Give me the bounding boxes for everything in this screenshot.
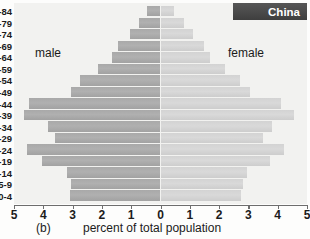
male-side-label: male [35, 46, 61, 60]
bar-male [48, 121, 161, 131]
bar-female [161, 6, 174, 16]
x-axis-tick-label: 5 [11, 208, 18, 222]
bar-male [29, 98, 161, 108]
bar-male [55, 133, 160, 143]
age-label: 50-54 [0, 76, 12, 85]
age-label: 0-4 [0, 192, 12, 201]
bar-female [161, 190, 242, 200]
bar-male [71, 87, 160, 97]
bar-female [161, 110, 294, 120]
pyramid-row [14, 121, 307, 131]
bar-male [80, 75, 161, 85]
x-axis-tick-label: 1 [186, 208, 193, 222]
pyramid-row [14, 98, 307, 108]
x-axis-tick-label: 5 [304, 208, 310, 222]
pyramid-row [14, 110, 307, 120]
age-label: 60-64 [0, 53, 12, 62]
bar-female [161, 179, 243, 189]
bar-female [161, 156, 271, 166]
age-label: 25-29 [0, 134, 12, 143]
pyramid-row [14, 64, 307, 74]
age-label: 30-34 [0, 123, 12, 132]
age-label: 35-39 [0, 111, 12, 120]
age-axis-labels: 80-8475-7970-7465-6960-6455-5950-5445-49… [0, 6, 13, 202]
bar-male [71, 179, 160, 189]
age-label: 15-19 [0, 157, 12, 166]
bar-female [161, 121, 272, 131]
female-side-label: female [228, 46, 264, 60]
panel-caption: (b) [36, 221, 51, 235]
age-label: 10-14 [0, 169, 12, 178]
bar-female [161, 41, 205, 51]
pyramid-row [14, 179, 307, 189]
bar-male [42, 156, 161, 166]
bar-male [147, 6, 160, 16]
x-axis-tick-label: 2 [99, 208, 106, 222]
pyramid-row [14, 156, 307, 166]
bar-male [27, 144, 160, 154]
age-label: 20-24 [0, 146, 12, 155]
x-axis-tick-label: 4 [40, 208, 47, 222]
bar-female [161, 98, 281, 108]
age-label: 80-84 [0, 7, 12, 16]
bar-female [161, 52, 211, 62]
age-label: 75-79 [0, 19, 12, 28]
age-label: 45-49 [0, 88, 12, 97]
age-label: 65-69 [0, 42, 12, 51]
bar-female [161, 18, 184, 28]
bar-male [98, 64, 161, 74]
pyramid-row [14, 87, 307, 97]
bar-female [161, 29, 193, 39]
age-label: 40-44 [0, 100, 12, 109]
pyramid-row [14, 29, 307, 39]
bar-female [161, 144, 284, 154]
x-axis-tick-label: 3 [69, 208, 76, 222]
bar-male [130, 29, 161, 39]
x-axis-tick-label: 0 [157, 208, 164, 222]
x-axis-tick-label: 2 [216, 208, 223, 222]
country-title: China [268, 6, 300, 18]
pyramid-row [14, 144, 307, 154]
pyramid-row [14, 167, 307, 177]
bar-female [161, 87, 250, 97]
bar-male [139, 18, 161, 28]
age-label: 5-9 [0, 180, 12, 189]
bar-male [118, 41, 160, 51]
pyramid-row [14, 133, 307, 143]
pyramid-row [14, 75, 307, 85]
x-axis-tick-label: 3 [245, 208, 252, 222]
x-axis-title: percent of total population [83, 221, 221, 235]
bar-male [24, 110, 160, 120]
plot-area [14, 6, 307, 202]
country-title-box: China [233, 3, 307, 20]
bar-female [161, 133, 264, 143]
pyramid-row [14, 190, 307, 200]
bar-female [161, 64, 225, 74]
population-pyramid-figure: 80-8475-7970-7465-6960-6455-5950-5445-49… [0, 0, 310, 239]
bar-male [67, 167, 161, 177]
x-axis-tick-label: 4 [274, 208, 281, 222]
bar-male [112, 52, 160, 62]
age-label: 55-59 [0, 65, 12, 74]
bar-female [161, 75, 240, 85]
x-axis-tick-label: 1 [128, 208, 135, 222]
bar-female [161, 167, 247, 177]
bar-male [70, 190, 161, 200]
age-label: 70-74 [0, 30, 12, 39]
